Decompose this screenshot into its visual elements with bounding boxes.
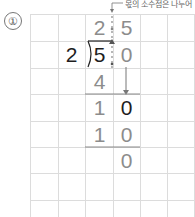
annotation-leader-line (112, 3, 123, 10)
quotient-decimal-point (111, 28, 114, 31)
division-bracket (88, 41, 91, 67)
dividend-decimal-point (111, 63, 114, 66)
arrow-down-icon (110, 9, 114, 13)
division-marks (0, 0, 195, 217)
